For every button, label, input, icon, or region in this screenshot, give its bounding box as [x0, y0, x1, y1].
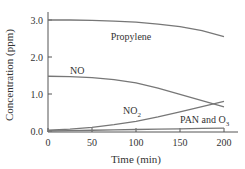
x-axis-label: Time (min) [111, 153, 161, 166]
x-tick-label: 0 [46, 137, 51, 148]
y-tick-label: 2.0 [31, 52, 44, 63]
x-tick-label: 100 [129, 137, 144, 148]
y-tick-label: 0.0 [31, 126, 44, 137]
y-axis-label: Concentration (ppm) [3, 29, 16, 121]
series-label: PAN and O3 [180, 114, 230, 128]
x-tick-label: 50 [87, 137, 97, 148]
x-tick-label: 200 [217, 137, 232, 148]
series-label: NO2 [123, 105, 141, 119]
y-tick-label: 1.0 [31, 89, 44, 100]
x-tick-label: 150 [173, 137, 188, 148]
series-labels: PropyleneNONO2PAN and O3 [70, 31, 230, 128]
series-line-no [48, 76, 224, 107]
y-tick-label: 3.0 [31, 15, 44, 26]
series-label: NO [70, 65, 84, 76]
line-chart: 0.01.02.03.0 050100150200 PropyleneNONO2… [0, 0, 245, 169]
series-label: Propylene [111, 31, 152, 42]
